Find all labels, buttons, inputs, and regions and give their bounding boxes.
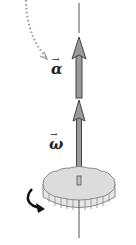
rotating-gear-diagram [0,0,136,245]
alpha-label: → α [51,62,63,77]
alpha-vector-arrow [72,37,86,98]
vector-arrow-icon: → [52,55,60,64]
omega-label: → ω [49,137,63,152]
dotted-curved-arrow [26,0,46,57]
rotation-arrowhead-icon [36,203,45,213]
vector-arrow-icon: → [50,130,58,139]
